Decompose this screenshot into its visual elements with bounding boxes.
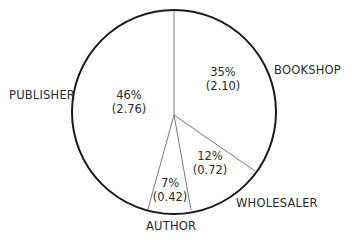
label-wholesaler: WHOLESALER — [236, 196, 318, 210]
amount-author: (0.42) — [152, 190, 188, 204]
label-bookshop: BOOKSHOP — [274, 63, 341, 77]
amount-bookshop: (2.10) — [203, 79, 243, 93]
percent-publisher: 46% — [109, 88, 149, 102]
amount-wholesaler: (0.72) — [190, 163, 230, 177]
amount-publisher: (2.76) — [109, 102, 149, 116]
value-publisher: 46% (2.76) — [109, 88, 149, 116]
value-author: 7% (0.42) — [152, 176, 188, 204]
percent-wholesaler: 12% — [190, 149, 230, 163]
value-bookshop: 35% (2.10) — [203, 65, 243, 93]
percent-author: 7% — [152, 176, 188, 190]
percent-bookshop: 35% — [203, 65, 243, 79]
label-author: AUTHOR — [146, 219, 196, 233]
label-publisher: PUBLISHER — [9, 88, 75, 102]
value-wholesaler: 12% (0.72) — [190, 149, 230, 177]
